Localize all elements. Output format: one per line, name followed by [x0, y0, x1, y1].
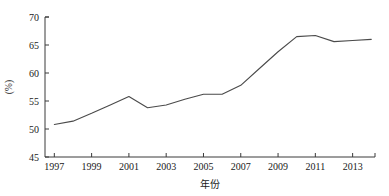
chart-figure: 455055606570 199719992001200320052007200… [0, 0, 389, 196]
x-tick-labels: 199719992001200320052007200920112013 [44, 161, 362, 172]
y-tick-label: 65 [29, 40, 39, 51]
chart-axes [45, 17, 375, 157]
x-tick-label: 1997 [44, 161, 64, 172]
y-axis-label: (%) [4, 80, 15, 94]
y-tick-label: 50 [29, 124, 39, 135]
y-tick-label: 60 [29, 68, 39, 79]
x-axis-label: 年份 [200, 178, 220, 190]
y-tick-label: 45 [29, 152, 39, 163]
x-tick-label: 2013 [343, 161, 363, 172]
x-tick-label: 2005 [193, 161, 213, 172]
y-tick-label: 55 [29, 96, 39, 107]
x-tick-label: 1999 [82, 161, 102, 172]
y-tick-labels: 455055606570 [29, 12, 39, 163]
line-chart: 455055606570 199719992001200320052007200… [0, 0, 389, 196]
x-tick-label: 2009 [268, 161, 288, 172]
x-tick-label: 2003 [156, 161, 176, 172]
x-tick-label: 2001 [119, 161, 139, 172]
data-series [54, 35, 371, 124]
chart-ticks [45, 17, 375, 157]
y-tick-label: 70 [29, 12, 39, 23]
series-line [54, 35, 371, 124]
x-tick-label: 2011 [306, 161, 326, 172]
x-tick-label: 2007 [231, 161, 251, 172]
